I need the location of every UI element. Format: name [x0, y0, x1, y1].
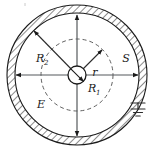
label-R1-subscript: 1 — [96, 89, 100, 97]
label-shell-S: S — [122, 52, 130, 65]
label-gaussian-radius-r: r — [92, 66, 98, 79]
label-R2-subscript: 2 — [43, 59, 49, 67]
figure-canvas: S E r R 1 R 2 — [0, 0, 157, 149]
cross-section-diagram: S E r R 1 R 2 — [0, 0, 157, 149]
inner-conductor — [68, 66, 86, 84]
label-R2-base: R — [35, 52, 44, 65]
label-field-E: E — [36, 98, 45, 111]
label-R1-base: R — [87, 82, 96, 95]
